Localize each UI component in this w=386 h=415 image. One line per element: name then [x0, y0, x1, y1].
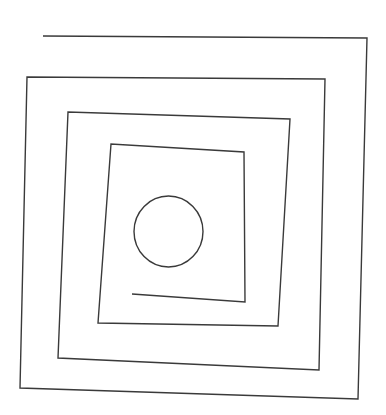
spiral-diagram	[0, 0, 386, 415]
center-circle	[134, 196, 203, 267]
square-spiral-path	[20, 36, 367, 399]
